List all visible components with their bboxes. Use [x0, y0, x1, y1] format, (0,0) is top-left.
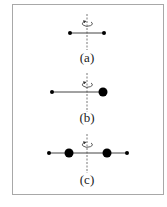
small-mass: [47, 151, 51, 155]
panel-a: (a): [68, 14, 106, 65]
large-mass: [65, 149, 74, 158]
small-mass: [50, 90, 54, 94]
small-mass: [68, 31, 72, 35]
panel-c: (c): [47, 134, 129, 187]
panel-b: (b): [50, 73, 108, 125]
panel-label-c: (c): [80, 172, 94, 187]
large-mass: [99, 88, 108, 97]
small-mass: [102, 31, 106, 35]
large-mass: [103, 149, 112, 158]
rotation-diagram: (a) (b) (c): [0, 0, 167, 207]
panel-label-b: (b): [79, 110, 94, 125]
panel-label-a: (a): [80, 50, 94, 65]
small-mass: [125, 151, 129, 155]
